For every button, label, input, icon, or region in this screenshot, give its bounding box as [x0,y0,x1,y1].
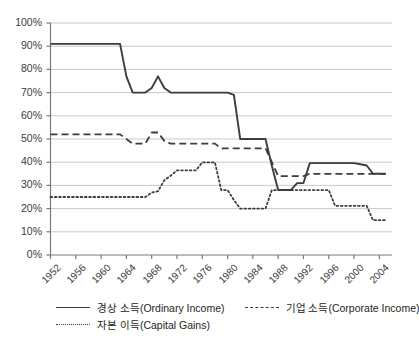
legend-swatch-solid-icon [56,307,90,308]
legend-label-capital-gains: 자본 이득(Capital Gains) [97,317,210,332]
legend-item-ordinary-income: 경상 소득(Ordinary Income) [56,300,225,315]
legend-item-corporate-income: 기업 소득(Corporate Income) [245,300,419,315]
legend-item-capital-gains: 자본 이득(Capital Gains) [56,317,210,332]
legend-row-2: 자본 이득(Capital Gains) [56,317,210,332]
legend-row-1: 경상 소득(Ordinary Income) 기업 소득(Corporate I… [56,300,419,315]
x-axis-ticks [51,255,380,259]
legend-swatch-dotted-icon [56,324,90,325]
legend-swatch-dashed-icon [245,307,279,308]
gridlines [51,23,393,232]
series-line-0 [51,44,386,190]
legend-label-ordinary-income: 경상 소득(Ordinary Income) [97,300,225,315]
legend-label-corporate-income: 기업 소득(Corporate Income) [286,300,419,315]
data-series-group [51,44,386,220]
series-line-2 [51,162,386,220]
